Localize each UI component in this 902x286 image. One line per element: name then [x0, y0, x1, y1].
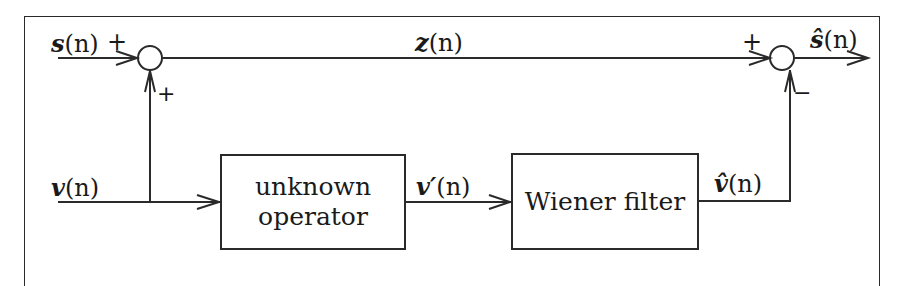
signal-arg: (n)	[429, 29, 463, 57]
block-label-line2: operator	[258, 202, 368, 232]
signal-arg: (n)	[65, 174, 99, 202]
sum2-bottom-sign: −	[793, 82, 811, 104]
signal-arg: (n)	[728, 170, 762, 198]
signal-label-v: v(n)	[51, 176, 99, 200]
signal-symbol: v′	[416, 172, 436, 201]
summing-junction-2	[770, 46, 794, 70]
signal-label-s-hat: ŝ(n)	[810, 28, 858, 52]
signal-symbol: v	[51, 173, 65, 202]
signal-label-z: z(n)	[415, 31, 463, 55]
unknown-operator-block: unknown operator	[220, 154, 406, 250]
summing-junction-1	[138, 46, 162, 70]
signal-label-s: s(n)	[51, 32, 99, 56]
block-label-line1: unknown	[255, 172, 371, 202]
wiener-filter-block: Wiener filter	[511, 153, 699, 250]
sum2-top-sign: +	[742, 30, 762, 54]
signal-symbol: s	[51, 29, 65, 58]
signal-arg: (n)	[824, 26, 858, 54]
signal-label-v-hat: v̂(n)	[714, 172, 762, 196]
signal-symbol: z	[415, 28, 429, 57]
sum1-top-sign: +	[107, 30, 127, 54]
signal-symbol: v̂	[714, 169, 728, 198]
sum1-bottom-sign: +	[157, 83, 175, 105]
block-label: Wiener filter	[525, 187, 685, 217]
signal-symbol: ŝ	[810, 25, 824, 54]
signal-label-v-prime: v′(n)	[416, 175, 470, 199]
signal-arg: (n)	[65, 30, 99, 58]
signal-arg: (n)	[436, 173, 470, 201]
